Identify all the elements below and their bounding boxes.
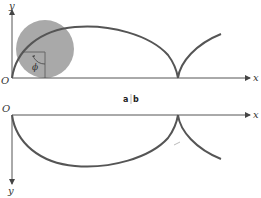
origin-label: O — [2, 103, 10, 114]
inverted-cycloid-arch — [12, 115, 178, 166]
panel-label-a: a — [123, 95, 128, 104]
angle-label: ϕ — [32, 62, 38, 72]
y-axis-label: y — [8, 0, 15, 11]
panel-label-b: b — [133, 95, 139, 104]
origin-label: O — [1, 75, 9, 86]
y-axis-label: y — [7, 185, 14, 196]
x-axis-label: x — [253, 109, 259, 120]
x-axis-label: x — [253, 72, 259, 83]
cycloid-next-arch — [178, 34, 221, 78]
stray-mark — [174, 142, 180, 145]
inverted-cycloid-next-arch — [178, 115, 221, 159]
panel-labels: a b — [123, 94, 139, 104]
bottom-panel: x y O — [2, 103, 259, 196]
cycloid-figure: ϕ y x O a b x y O — [0, 0, 261, 198]
top-panel: ϕ y x O — [1, 0, 259, 86]
